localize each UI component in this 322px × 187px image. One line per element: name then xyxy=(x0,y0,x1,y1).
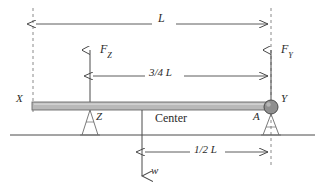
label-total-span: L xyxy=(158,12,165,24)
label-force-fz-subscript: Z xyxy=(107,51,112,60)
label-force-fy: FY xyxy=(281,43,293,59)
beam xyxy=(32,102,272,110)
pin-joint-y xyxy=(264,100,278,114)
label-center: Center xyxy=(155,112,187,124)
label-point-y: Y xyxy=(281,93,287,104)
label-support-a: A xyxy=(253,111,260,122)
label-dimension-three-quarter-l: 3/4 L xyxy=(149,67,172,78)
label-point-x: X xyxy=(16,93,23,104)
label-force-fz: FZ xyxy=(100,43,112,59)
label-support-z: Z xyxy=(96,111,102,122)
diagram-canvas xyxy=(0,0,322,187)
label-load-w: w xyxy=(151,165,158,176)
beam-diagram: L FZ FY 3/4 L X Y Z A Center 1/2 L w xyxy=(0,0,322,187)
support-a xyxy=(261,114,281,135)
label-force-fy-subscript: Y xyxy=(288,51,293,60)
label-dimension-half-l: 1/2 L xyxy=(194,144,217,155)
